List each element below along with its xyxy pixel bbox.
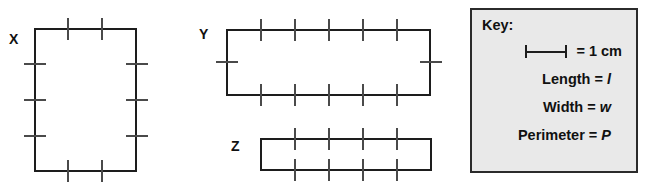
tick-mark [101,18,103,40]
tick-mark [328,84,330,106]
tick-mark [67,160,69,182]
tick-mark [24,99,46,101]
tick-mark [328,159,330,181]
tick-mark [260,84,262,106]
tick-mark [362,19,364,41]
scale-equals-label: = 1 cm [576,43,622,60]
tick-mark [24,63,46,65]
key-variable-width: w [600,99,611,115]
tick-mark [396,159,398,181]
tick-mark [362,128,364,150]
tick-mark [362,84,364,106]
tick-mark [294,19,296,41]
key-row-perimeter: Perimeter = P [482,127,625,144]
tick-mark [126,99,148,101]
tick-mark [126,63,148,65]
figure-label-z: Z [231,139,240,153]
tick-mark [24,135,46,137]
tick-mark [126,135,148,137]
tick-mark [328,128,330,150]
tick-mark [294,84,296,106]
key-variable-perimeter: P [601,127,611,143]
rectangle-x [34,28,137,172]
tick-mark [260,19,262,41]
tick-mark [396,19,398,41]
key-term-length: Length = [542,71,607,87]
tick-mark [396,128,398,150]
key-box: Key: = 1 cm Length = l Width = w Perimet… [470,8,638,173]
scale-bar-icon [525,45,567,58]
key-term-perimeter: Perimeter = [518,127,601,143]
tick-mark [328,19,330,41]
tick-mark [420,61,442,63]
tick-mark [294,128,296,150]
key-row-length: Length = l [482,71,625,88]
figure-label-y: Y [199,27,209,41]
tick-mark [101,160,103,182]
key-row-width: Width = w [482,99,625,116]
key-term-width: Width = [543,99,600,115]
key-variable-length: l [607,71,611,87]
rectangle-z [260,138,432,171]
figure-canvas: X Y Z Key: [0,0,655,192]
figure-label-x: X [9,32,19,46]
tick-mark [294,159,296,181]
tick-mark [362,159,364,181]
key-row-scale: = 1 cm [482,43,625,60]
tick-mark [67,18,69,40]
tick-mark [216,61,238,63]
key-title: Key: [482,17,625,34]
tick-mark [396,84,398,106]
